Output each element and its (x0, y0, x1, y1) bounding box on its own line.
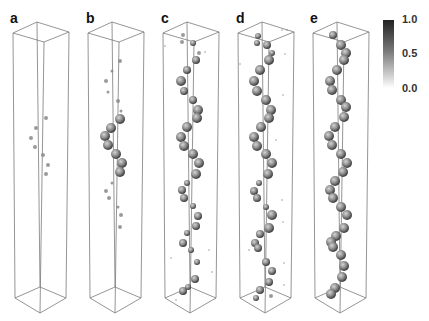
sphere (267, 158, 277, 168)
sphere (111, 149, 121, 159)
sphere (104, 189, 108, 193)
panel-label-c: c (161, 11, 169, 25)
sphere (286, 29, 288, 31)
sphere (194, 212, 202, 220)
sphere (120, 110, 123, 113)
sphere (253, 194, 261, 202)
sphere (117, 158, 127, 168)
colorbar-tick-max: 1.0 (402, 14, 417, 25)
sphere (107, 196, 111, 200)
colorbar-tick-mid: 0.5 (402, 48, 417, 59)
sphere (339, 261, 349, 271)
sphere (107, 91, 110, 94)
sphere (254, 40, 260, 46)
sphere (117, 206, 120, 209)
sphere (180, 87, 188, 95)
sphere-cluster (29, 116, 50, 176)
panel-e (313, 22, 369, 313)
sphere (256, 230, 264, 238)
sphere (190, 203, 196, 209)
sphere (336, 149, 346, 159)
sphere (264, 223, 274, 233)
sphere (179, 141, 189, 151)
sphere (342, 210, 352, 220)
sphere (255, 33, 261, 39)
sphere (281, 29, 283, 31)
sphere (33, 145, 37, 149)
sphere (339, 55, 349, 65)
sphere (329, 31, 337, 39)
panel-label-e: e (310, 11, 318, 25)
sphere (103, 140, 113, 150)
sphere (204, 51, 206, 53)
sphere (342, 158, 352, 168)
sphere (192, 222, 200, 230)
colorbar-gradient (383, 20, 394, 88)
sphere (188, 149, 198, 159)
sphere (111, 182, 114, 185)
sphere (267, 210, 277, 220)
sphere (116, 99, 120, 103)
sphere (263, 204, 269, 210)
sphere (178, 186, 186, 194)
sphere (104, 79, 108, 83)
sphere (239, 63, 241, 65)
sphere (179, 287, 187, 295)
panel-b (88, 22, 144, 313)
sphere (179, 239, 187, 247)
sphere (250, 187, 258, 195)
wireframe-box (238, 22, 294, 313)
sphere (164, 45, 166, 47)
sphere (183, 66, 191, 74)
sphere (256, 180, 262, 186)
sphere (188, 247, 194, 253)
sphere (327, 140, 337, 150)
sphere (194, 158, 204, 168)
sphere-cluster (324, 31, 352, 299)
panels-layer (13, 22, 369, 313)
wireframe-box (13, 22, 69, 313)
sphere (264, 113, 274, 123)
sphere (191, 275, 199, 283)
figure-canvas (0, 0, 429, 321)
sphere (100, 131, 110, 141)
sphere (282, 94, 284, 96)
sphere (328, 242, 338, 252)
panel-a (13, 22, 69, 313)
sphere (330, 122, 340, 132)
sphere (326, 289, 336, 299)
sphere (46, 163, 50, 167)
sphere (336, 250, 346, 260)
sphere (332, 65, 342, 75)
sphere (283, 262, 285, 264)
sphere (261, 149, 271, 159)
sphere (208, 249, 210, 251)
panel-label-a: a (10, 11, 18, 25)
wireframe-box (88, 22, 144, 313)
panel-label-b: b (86, 11, 95, 25)
sphere (191, 169, 201, 179)
sphere (262, 258, 270, 266)
sphere (269, 294, 273, 298)
sphere (284, 53, 286, 55)
sphere (175, 299, 177, 301)
sphere (327, 85, 337, 95)
sphere (181, 33, 185, 37)
sphere (192, 113, 202, 123)
sphere (282, 221, 284, 223)
sphere (337, 272, 347, 282)
sphere (341, 102, 351, 112)
sphere (339, 223, 349, 233)
sphere (180, 194, 188, 202)
sphere (248, 249, 250, 251)
sphere (283, 284, 285, 286)
sphere (119, 213, 123, 217)
sphere (252, 141, 262, 151)
sphere (29, 136, 33, 140)
sphere (41, 153, 45, 157)
sphere (328, 193, 338, 203)
sphere (249, 132, 259, 142)
sphere (118, 225, 122, 229)
sphere (255, 65, 265, 75)
sphere (184, 180, 190, 186)
